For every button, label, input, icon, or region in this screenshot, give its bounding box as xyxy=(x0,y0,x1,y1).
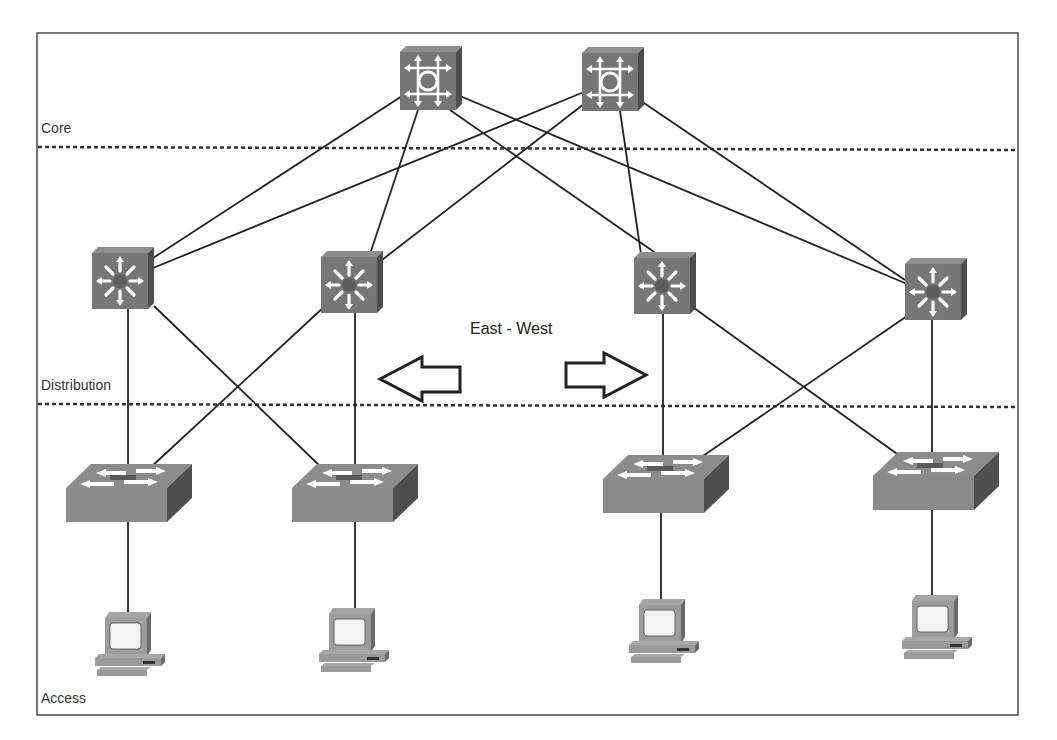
distribution-layer-label: Distribution xyxy=(41,377,111,393)
workstation-3-icon xyxy=(629,599,699,663)
link-core2-dist3 xyxy=(620,111,641,254)
link-core1-dist3 xyxy=(450,110,657,254)
link-core1-dist2 xyxy=(370,110,418,254)
workstation-2-icon xyxy=(319,608,389,672)
core-router-2-icon xyxy=(582,47,644,111)
distribution-switch-1-icon xyxy=(92,247,154,309)
west-arrow-icon xyxy=(380,357,460,401)
access-switch-2-icon xyxy=(292,464,418,522)
distribution-switch-3-icon xyxy=(634,252,696,314)
core-router-1-icon xyxy=(400,46,462,110)
link-dist2-acc1 xyxy=(150,306,325,468)
network-topology-diagram: Core Distribution Access xyxy=(0,0,1057,740)
distribution-switch-4-icon xyxy=(905,258,967,320)
access-switch-3-icon xyxy=(603,455,729,513)
east-arrow-icon xyxy=(566,353,646,397)
access-layer-label: Access xyxy=(41,690,86,706)
access-host-links xyxy=(128,510,932,612)
access-switch-1-icon xyxy=(66,464,192,522)
link-dist3-acc4 xyxy=(694,308,900,456)
distribution-switch-2-icon xyxy=(321,251,383,313)
workstation-4-icon xyxy=(902,595,972,659)
distribution-layer-divider xyxy=(38,404,1017,407)
access-switch-4-icon xyxy=(873,452,999,510)
core-layer-label: Core xyxy=(41,120,72,136)
core-distribution-links xyxy=(150,92,912,286)
link-core1-dist1 xyxy=(150,96,402,260)
diagram-frame xyxy=(37,33,1018,715)
workstation-1-icon xyxy=(95,612,165,676)
link-core2-dist2 xyxy=(378,104,584,263)
east-west-traffic-label: East - West xyxy=(470,320,553,337)
